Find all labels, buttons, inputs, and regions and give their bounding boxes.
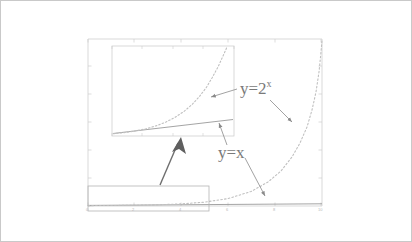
label-exponential-exponent: x [267,78,272,89]
main-xtick-2: 4 [179,207,181,212]
chart-stage: y=2x y=x 0 2 4 6 8 10 [0,0,412,242]
arrow-exp-to-inset [211,89,237,97]
main-xtick-1: 2 [132,207,134,212]
inset-axes [112,46,234,136]
main-xtick-3: 6 [226,207,228,212]
inset-ticks [112,46,234,136]
zoom-source-rect [88,186,209,211]
main-xtick-5: 10 [318,207,322,212]
label-exponential: y=2x [240,78,272,99]
main-xtick-4: 8 [273,207,275,212]
arrow-exp-to-main [270,100,292,122]
arrow-linear-to-inset [219,123,227,145]
inset-frame [112,46,234,136]
label-linear: y=x [218,143,245,163]
main-xtick-0: 0 [86,207,88,212]
plot-svg [0,0,412,242]
label-exponential-base: y=2 [240,79,267,98]
arrow-linear-to-main [245,158,265,196]
inset-series-exponential [113,47,227,134]
